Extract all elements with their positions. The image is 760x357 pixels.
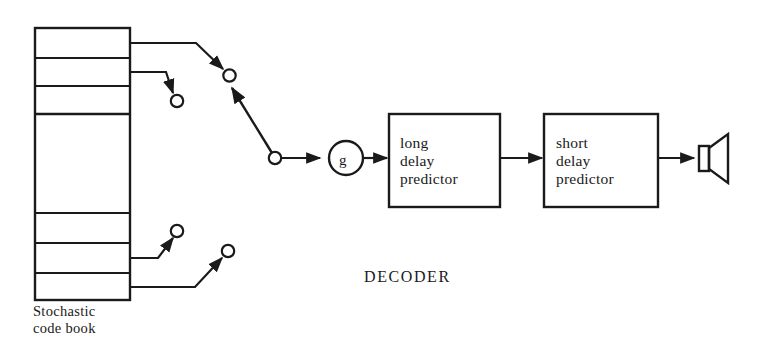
decoder-block-diagram: Stochasticcode book g longdelaypredictor… xyxy=(0,0,760,357)
codebook-caption-line2: code book xyxy=(33,320,96,336)
switch-contact-2[interactable] xyxy=(171,95,183,107)
tap-wire-2 xyxy=(130,72,173,93)
short-delay-predictor-label: shortdelaypredictor xyxy=(556,134,614,188)
switch-contact-3[interactable] xyxy=(171,225,183,237)
diagram-canvas xyxy=(0,0,760,357)
rotary-switch[interactable] xyxy=(232,88,281,164)
switch-arm[interactable] xyxy=(232,88,272,153)
long-delay-predictor-label: longdelaypredictor xyxy=(400,134,458,188)
long-delay-line2: delay xyxy=(400,152,435,169)
stochastic-codebook xyxy=(35,28,130,300)
codebook-caption-line1: Stochastic xyxy=(33,303,96,319)
codebook-caption: Stochasticcode book xyxy=(33,303,96,337)
short-delay-line3: predictor xyxy=(556,170,614,187)
codebook-tap-4 xyxy=(130,245,234,287)
gain-symbol: g xyxy=(339,152,347,169)
short-delay-line1: short xyxy=(556,134,588,151)
loudspeaker-body xyxy=(699,146,709,171)
codebook-tap-1 xyxy=(130,43,236,82)
tap-wire-1 xyxy=(130,43,223,69)
short-delay-line2: delay xyxy=(556,152,591,169)
switch-contact-4[interactable] xyxy=(222,245,234,257)
loudspeaker-horn xyxy=(709,134,728,183)
codebook-tap-3 xyxy=(130,225,183,258)
loudspeaker-icon xyxy=(699,134,728,183)
tap-wire-4 xyxy=(130,258,222,287)
codebook-tap-2 xyxy=(130,72,183,107)
long-delay-line1: long xyxy=(400,134,428,151)
switch-pivot[interactable] xyxy=(269,152,281,164)
long-delay-line3: predictor xyxy=(400,170,458,187)
switch-contact-1[interactable] xyxy=(223,69,235,81)
codebook-outline xyxy=(35,28,130,300)
diagram-title: DECODER xyxy=(364,268,451,287)
tap-wire-3 xyxy=(130,238,173,258)
